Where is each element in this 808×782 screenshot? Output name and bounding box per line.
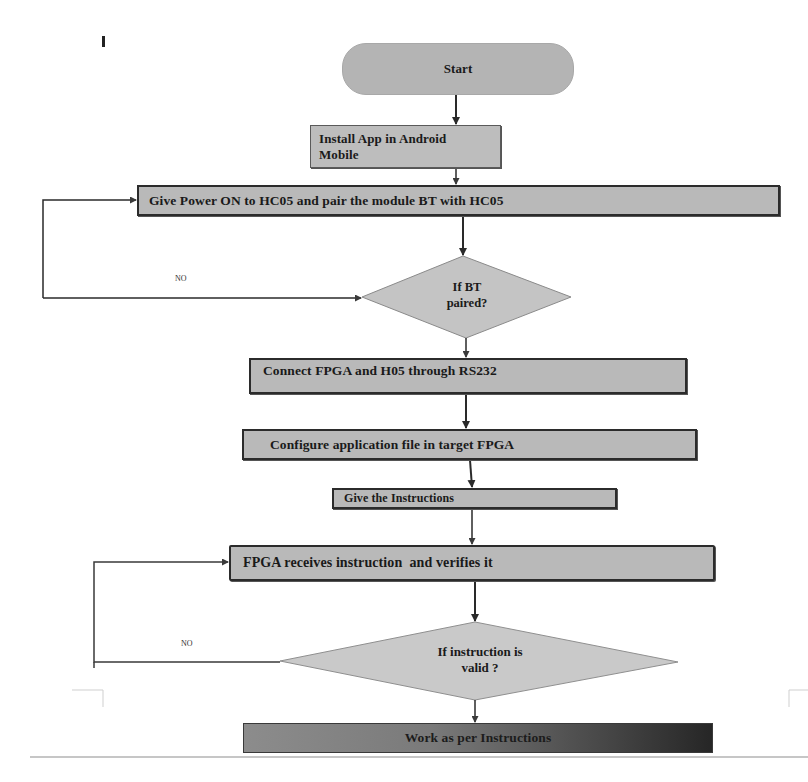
bt-paired-decision-label: If BT paired? <box>412 280 522 311</box>
give-instructions-node: Give the Instructions <box>332 488 617 509</box>
stray-mark <box>102 36 105 47</box>
crop-mark-right <box>789 690 808 707</box>
configure-node: Configure application file in target FPG… <box>242 429 697 460</box>
flowchart-canvas: Start Install App in Android Mobile Give… <box>0 0 808 782</box>
bt-paired-line1: If BT <box>412 280 522 296</box>
power-pair-node: Give Power ON to HC05 and pair the modul… <box>137 185 780 216</box>
loop-bt-no-upper <box>43 200 136 298</box>
power-pair-label: Give Power ON to HC05 and pair the modul… <box>149 193 504 209</box>
instruction-no-label: NO <box>181 639 193 648</box>
fpga-receives-node: FPGA receives instruction and verifies i… <box>229 545 715 581</box>
install-app-label-line1: Install App in Android <box>319 131 446 147</box>
bt-paired-line2: paired? <box>412 296 522 312</box>
connect-fpga-label: Connect FPGA and H05 through RS232 <box>263 363 497 379</box>
fpga-receives-label: FPGA receives instruction and verifies i… <box>243 555 493 571</box>
instruction-valid-decision-label: If instruction is valid ? <box>380 644 580 677</box>
install-app-node: Install App in Android Mobile <box>310 125 501 168</box>
arrow-configure-to-give-instructions <box>470 460 472 487</box>
work-node: Work as per Instructions <box>243 723 713 753</box>
bt-no-label: NO <box>175 274 187 283</box>
work-label: Work as per Instructions <box>405 730 552 746</box>
instruction-valid-line2: valid ? <box>380 660 580 676</box>
install-app-label-line2: Mobile <box>319 147 359 163</box>
give-instructions-label: Give the Instructions <box>344 491 454 506</box>
instruction-valid-line1: If instruction is <box>380 644 580 660</box>
start-node: Start <box>342 43 574 95</box>
configure-label: Configure application file in target FPG… <box>270 437 514 453</box>
crop-mark-left <box>72 690 103 707</box>
connect-fpga-node: Connect FPGA and H05 through RS232 <box>249 358 687 394</box>
start-label: Start <box>444 61 473 77</box>
